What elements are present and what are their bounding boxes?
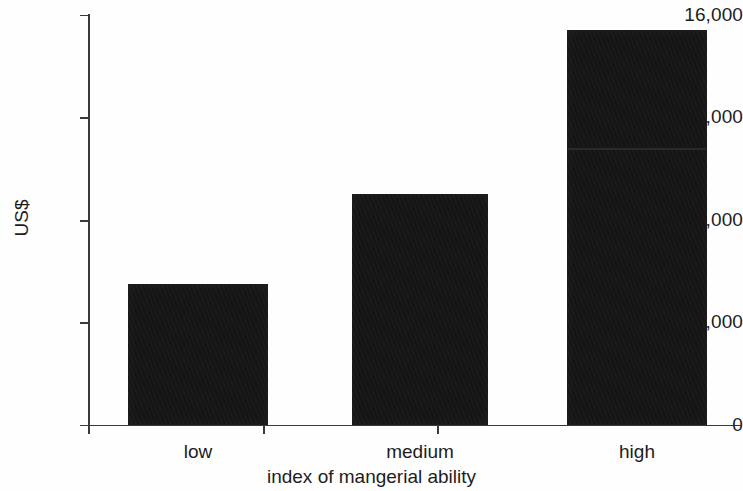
y-axis-tick-label-16000: 16,000: [671, 4, 743, 26]
bar-high: [567, 30, 707, 425]
x-axis-tick-1: [263, 425, 265, 434]
bar-low: [128, 284, 268, 425]
y-axis-tick-4000: [80, 322, 89, 324]
bar-chart-figure: 16,000 12,000 8,000 4,000 0 low medium h…: [0, 0, 743, 491]
y-axis-tick-16000: [80, 15, 89, 17]
y-axis-tick-8000: [80, 220, 89, 222]
x-axis-category-label-medium: medium: [386, 441, 454, 463]
x-axis-line: [88, 425, 741, 427]
x-axis-tick-2: [437, 425, 439, 434]
bar-medium: [352, 194, 488, 425]
x-axis-category-label-high: high: [619, 441, 655, 463]
y-axis-tick-12000: [80, 117, 89, 119]
y-axis-title: US$: [11, 178, 33, 258]
x-axis-tick-0: [88, 425, 90, 434]
x-axis-category-label-low: low: [184, 441, 213, 463]
x-axis-title: index of mangerial ability: [0, 466, 743, 488]
